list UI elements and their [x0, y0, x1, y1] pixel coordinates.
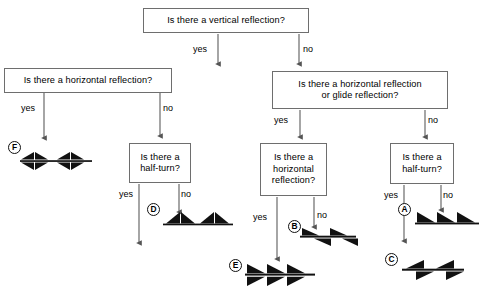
- flowchart-canvas: Is there a vertical reflection? Is there…: [0, 0, 480, 292]
- edge-label-right-yes: yes: [274, 115, 288, 125]
- question-box-halfturn-left[interactable]: Is there a half-turn?: [129, 143, 191, 183]
- question-text-line-3: reflection?: [272, 175, 315, 187]
- edge-label-root-no: no: [303, 44, 313, 54]
- pattern-glyph-b-triangle-glide: [300, 226, 358, 252]
- question-box-horizontal-or-glide[interactable]: Is there a horizontal reflection or glid…: [272, 71, 448, 109]
- question-text-line-2: half-turn?: [402, 164, 442, 176]
- question-text: Is there a horizontal reflection?: [24, 75, 153, 87]
- question-box-halfturn-right[interactable]: Is there a half-turn?: [390, 143, 454, 184]
- edge-label-right-no: no: [428, 115, 438, 125]
- outcome-tag-c: C: [385, 253, 398, 266]
- pattern-glyph-e-triangle-mirror-stack: [245, 261, 315, 292]
- outcome-tag-e: E: [229, 259, 242, 272]
- edge-label-halfturn-right-yes: yes: [384, 190, 398, 200]
- question-box-horizontal-reflection-mid[interactable]: Is there a horizontal reflection?: [260, 143, 327, 196]
- question-text-line-2: horizontal: [273, 164, 314, 176]
- question-text-line-2: half-turn?: [140, 163, 180, 175]
- question-text-line-1: Is there a: [274, 152, 313, 164]
- question-text-line-1: Is there a horizontal reflection: [298, 79, 421, 91]
- edge-label-left-no: no: [163, 103, 173, 113]
- edge-label-left-yes: yes: [21, 103, 35, 113]
- edge-label-halfturn-left-yes: yes: [119, 189, 133, 199]
- edge-label-halfturn-right-no: no: [443, 190, 453, 200]
- edge-label-root-yes: yes: [193, 44, 207, 54]
- question-text: Is there a vertical reflection?: [167, 15, 285, 27]
- edge-label-horizontal-mid-yes: yes: [253, 212, 267, 222]
- question-text-line-1: Is there a: [402, 152, 441, 164]
- pattern-glyph-a-triangle-translation: [415, 209, 479, 231]
- question-text-line-1: Is there a: [140, 152, 179, 164]
- pattern-glyph-c-triangle-halfturn: [402, 257, 468, 287]
- pattern-glyph-d-peak-pairs: [163, 209, 233, 233]
- outcome-tag-a: A: [398, 203, 411, 216]
- edge-label-horizontal-mid-no: no: [317, 210, 327, 220]
- question-box-vertical-reflection[interactable]: Is there a vertical reflection?: [143, 8, 309, 33]
- pattern-glyph-f-bowtie-mirror: [20, 148, 92, 178]
- question-box-horizontal-reflection-left[interactable]: Is there a horizontal reflection?: [4, 68, 172, 93]
- outcome-tag-d: D: [147, 203, 160, 216]
- edge-label-halfturn-left-no: no: [181, 189, 191, 199]
- question-text-line-2: or glide reflection?: [322, 90, 399, 102]
